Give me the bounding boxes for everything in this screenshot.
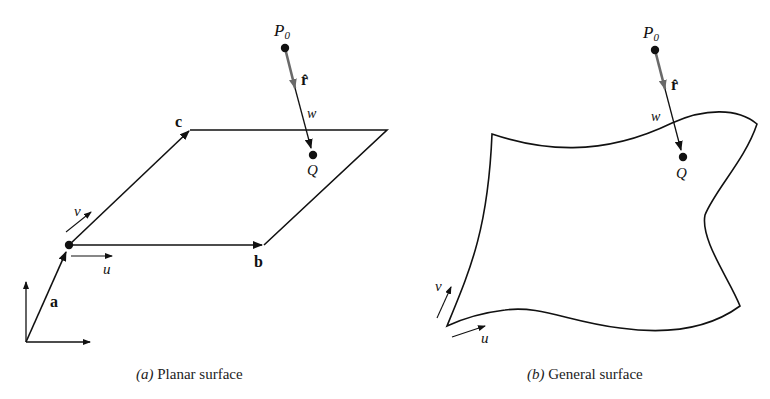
caption-planar: (a) Planar surface — [136, 366, 243, 383]
label-u: u — [481, 330, 489, 346]
panel-planar-surface: P0 r̂ w Q a b c u v (a) Planar surface — [26, 21, 387, 383]
label-a: a — [50, 293, 58, 310]
vector-c-arrow — [69, 131, 189, 245]
label-q: Q — [676, 165, 687, 181]
label-w: w — [307, 106, 317, 121]
point-q — [309, 151, 317, 159]
panel-general-surface: P0 r̂ w Q u v (b) General surface — [435, 23, 757, 383]
label-c: c — [175, 113, 182, 130]
label-p0: P0 — [642, 23, 659, 43]
origin-point — [65, 241, 73, 249]
figure-canvas: P0 r̂ w Q a b c u v (a) Planar surface P… — [0, 0, 770, 399]
general-surface-outline — [447, 112, 757, 331]
label-b: b — [254, 253, 263, 270]
label-p0: P0 — [273, 21, 290, 41]
point-p0 — [281, 44, 289, 52]
plane-edges — [190, 130, 387, 245]
unit-vector-r-arrow — [655, 50, 665, 89]
vector-a-arrow — [26, 252, 66, 342]
label-v: v — [74, 203, 81, 219]
label-r-hat: r̂ — [671, 76, 678, 93]
label-r-hat: r̂ — [301, 71, 308, 88]
caption-general: (b) General surface — [527, 366, 643, 383]
unit-vector-r-arrow — [285, 48, 295, 88]
label-w: w — [651, 109, 661, 124]
label-u: u — [103, 261, 111, 277]
label-q: Q — [307, 162, 318, 178]
point-q — [679, 153, 687, 161]
label-v: v — [435, 278, 442, 294]
point-p0 — [651, 46, 659, 54]
